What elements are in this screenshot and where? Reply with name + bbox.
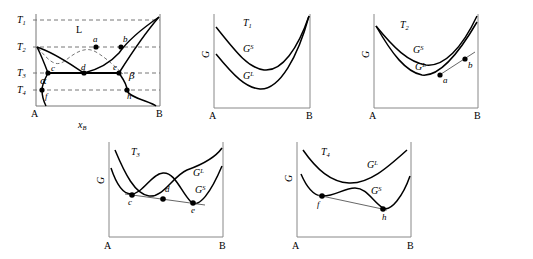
- region-label-liquid: L: [76, 24, 82, 35]
- curve-label-G-liquid-T2: GL: [415, 61, 426, 72]
- point-label-e: e: [113, 62, 117, 72]
- panel-T3-title: T3: [131, 146, 141, 158]
- axis-label-T4: T4: [17, 84, 27, 96]
- point-f-marker: [39, 87, 44, 92]
- panel-T1-frame: [214, 14, 310, 108]
- point-label-b: b: [123, 34, 128, 44]
- point-label-f-T4: f: [317, 199, 321, 209]
- panel-T2-endpoint-B: B: [474, 110, 481, 121]
- panel-T4-endpoint-B: B: [407, 240, 414, 251]
- point-e-marker: [116, 70, 121, 75]
- panel-T4-endpoint-A: A: [292, 240, 300, 251]
- free-energy-panel-T3: T3 G GL GS c d e A B: [95, 132, 245, 259]
- point-label-e-T3: e: [191, 205, 195, 215]
- point-label-h: h: [127, 91, 132, 101]
- curve-label-G-liquid-T3: GL: [193, 167, 204, 178]
- curve-G-liquid-T1: [216, 16, 309, 89]
- point-label-c: c: [51, 63, 55, 73]
- point-label-b-T2: b: [468, 60, 473, 70]
- point-b-marker: [118, 44, 123, 49]
- point-label-d: d: [81, 62, 86, 72]
- point-label-d-T3: d: [165, 184, 170, 194]
- panel-T1-y-axis-label: G: [200, 51, 211, 58]
- region-label-alpha: α: [40, 75, 47, 86]
- endpoint-label-A: A: [31, 108, 39, 119]
- panel-T4-title: T4: [321, 146, 331, 158]
- panel-T1-endpoint-A: A: [209, 110, 217, 121]
- axis-label-T1: T1: [17, 14, 26, 26]
- axis-label-T3: T3: [17, 67, 27, 79]
- free-energy-panel-T2: T2 G GS GL a b A B: [360, 0, 495, 130]
- point-d-marker-T3: [160, 196, 166, 202]
- beta-solvus: [119, 17, 159, 106]
- point-a-marker: [93, 44, 98, 49]
- curve-G-solid-T1: [216, 16, 309, 70]
- panel-T2-frame: [374, 14, 478, 108]
- x-axis-label: xB: [77, 119, 86, 131]
- point-b-marker-T2: [462, 56, 467, 61]
- panel-T4-frame: [297, 142, 411, 237]
- panel-T1-title: T1: [243, 17, 252, 29]
- curve-label-G-liquid-T1: GL: [243, 70, 254, 81]
- panel-T1-endpoint-B: B: [306, 110, 313, 121]
- curve-label-G-solid-T2: GS: [413, 44, 424, 55]
- axis-label-T2: T2: [17, 41, 27, 53]
- curve-label-G-liquid-T4: GL: [367, 159, 378, 170]
- point-f-marker-T4: [319, 193, 325, 199]
- endpoint-label-B: B: [156, 108, 163, 119]
- panel-T2-title: T2: [400, 19, 410, 31]
- curve-label-G-solid-T3: GS: [195, 184, 206, 195]
- point-label-f: f: [45, 91, 49, 101]
- point-label-a-T2: a: [443, 75, 448, 85]
- curve-G-liquid-T2: [376, 22, 477, 75]
- point-label-h-T4: h: [382, 212, 387, 222]
- panel-T2-endpoint-A: A: [369, 110, 377, 121]
- point-label-a: a: [93, 34, 98, 44]
- phase-diagram-panel: T1 T2 T3 T4 L α β a b c d e f h A B xB: [0, 0, 195, 130]
- panel-T2-y-axis-label: G: [360, 51, 371, 58]
- region-label-beta: β: [128, 70, 135, 81]
- panel-T3-y-axis-label: G: [95, 177, 106, 184]
- panel-T3-endpoint-A: A: [104, 240, 112, 251]
- curve-label-G-solid-T1: GS: [243, 43, 254, 54]
- panel-T4-y-axis-label: G: [283, 175, 294, 182]
- curve-G-solid-T2: [376, 16, 477, 65]
- curve-label-G-solid-T4: GS: [371, 185, 382, 196]
- liquidus-left: [37, 47, 84, 73]
- phase-diagram-frame: [36, 14, 160, 106]
- point-h-marker-T4: [380, 206, 386, 212]
- point-a-marker-T2: [437, 72, 442, 77]
- curve-G-liquid-T4: [303, 150, 407, 183]
- free-energy-panel-T4: T4 G GL GS f h A B: [283, 132, 433, 259]
- point-label-c-T3: c: [128, 197, 132, 207]
- free-energy-panel-T1: T1 G GS GL A B: [200, 0, 325, 130]
- panel-T3-endpoint-B: B: [219, 240, 226, 251]
